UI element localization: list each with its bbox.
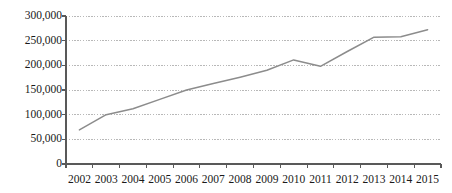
- x-axis-tick-label: 2015: [412, 174, 444, 186]
- line-chart: 050,000100,000150,000200,000250,000300,0…: [0, 0, 452, 193]
- x-axis-labels: 2002200320042005200620072008200920102011…: [0, 0, 452, 193]
